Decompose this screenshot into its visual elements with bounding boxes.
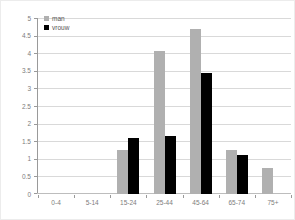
y-axis-label-3: 3 <box>2 85 31 92</box>
y-tick-1.5 <box>34 141 37 142</box>
x-axis-label-45-64: 45-64 <box>192 199 209 206</box>
y-tick-5 <box>34 18 37 19</box>
bar-vrouw-25-44 <box>165 136 176 194</box>
y-axis-label-2.5: 2.5 <box>2 103 31 110</box>
gridline-5 <box>38 18 291 19</box>
y-axis-label-0.5: 0.5 <box>2 173 31 180</box>
legend-label-vrouw: vrouw <box>52 24 69 31</box>
x-axis-label-0-4: 0-4 <box>51 199 60 206</box>
legend-label-man: man <box>52 15 65 22</box>
x-axis-label-15-24: 15-24 <box>120 199 137 206</box>
x-tick-5 <box>219 195 220 198</box>
x-tick-4 <box>183 195 184 198</box>
legend-item-vrouw: vrouw <box>44 23 69 32</box>
gridline-4.5 <box>38 36 291 37</box>
x-tick-0 <box>38 195 39 198</box>
gridline-3 <box>38 88 291 89</box>
x-tick-2 <box>110 195 111 198</box>
x-axis-label-25-44: 25-44 <box>156 199 173 206</box>
y-axis-label-3.5: 3.5 <box>2 67 31 74</box>
x-axis-label-5-14: 5-14 <box>86 199 99 206</box>
bar-vrouw-15-24 <box>128 138 139 194</box>
y-tick-3 <box>34 88 37 89</box>
x-tick-7 <box>291 195 292 198</box>
legend-swatch-vrouw <box>44 25 49 30</box>
y-axis-label-5: 5 <box>2 15 31 22</box>
y-tick-0 <box>34 193 37 194</box>
y-tick-4.5 <box>34 36 37 37</box>
gridline-4 <box>38 53 291 54</box>
x-axis-label-75+: 75+ <box>267 199 278 206</box>
x-axis-label-65-74: 65-74 <box>228 199 245 206</box>
y-axis-label-4: 4 <box>2 50 31 57</box>
bar-vrouw-65-74 <box>237 155 248 194</box>
legend-item-man: man <box>44 14 69 23</box>
gridline-2 <box>38 124 291 125</box>
y-tick-2 <box>34 124 37 125</box>
x-tick-6 <box>255 195 256 198</box>
y-axis-label-2: 2 <box>2 120 31 127</box>
x-tick-3 <box>146 195 147 198</box>
x-tick-1 <box>74 195 75 198</box>
gridline-2.5 <box>38 106 291 107</box>
bar-man-75+ <box>262 168 273 194</box>
legend-swatch-man <box>44 16 49 21</box>
chart: 00.511.522.533.544.55 0-45-1415-2425-444… <box>0 0 295 220</box>
bar-man-15-24 <box>117 150 128 194</box>
y-axis-label-0: 0 <box>2 191 31 198</box>
y-tick-4 <box>34 53 37 54</box>
y-axis-label-1: 1 <box>2 155 31 162</box>
gridline-3.5 <box>38 71 291 72</box>
legend: manvrouw <box>44 14 69 32</box>
bar-man-45-64 <box>190 29 201 194</box>
y-tick-3.5 <box>34 71 37 72</box>
bar-vrouw-45-64 <box>201 73 212 194</box>
bar-man-25-44 <box>154 51 165 194</box>
y-tick-1 <box>34 159 37 160</box>
y-axis-label-1.5: 1.5 <box>2 138 31 145</box>
bar-man-65-74 <box>226 150 237 194</box>
plot-area: 00.511.522.533.544.55 0-45-1415-2425-444… <box>38 18 291 194</box>
y-tick-2.5 <box>34 106 37 107</box>
y-tick-0.5 <box>34 176 37 177</box>
y-axis-label-4.5: 4.5 <box>2 32 31 39</box>
